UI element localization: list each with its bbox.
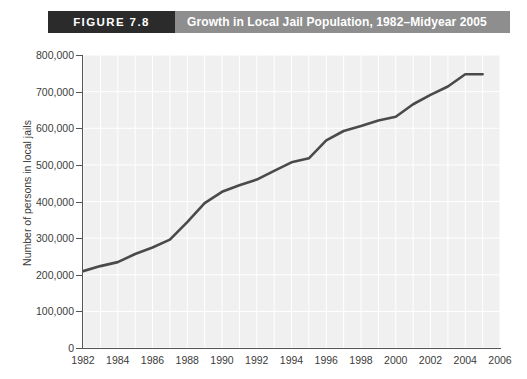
y-axis-tick-label: 800,000 [8,49,74,61]
y-axis-tick-label: 100,000 [8,305,74,317]
y-axis-tick-label: 200,000 [8,269,74,281]
y-axis-tick-label: 700,000 [8,86,74,98]
plot-area [83,55,500,348]
y-axis-tick-label: 600,000 [8,122,74,134]
data-line-series [83,55,500,348]
y-axis-tick-label: 400,000 [8,196,74,208]
y-axis-tick-label: 0 [8,342,74,354]
figure-title: Growth in Local Jail Population, 1982–Mi… [175,11,510,33]
y-axis-tick-label: 300,000 [8,232,74,244]
x-axis-tick-label: 2006 [480,354,520,366]
y-axis-tick-labels: 0100,000200,000300,000400,000500,000600,… [0,40,74,379]
chart-container: Number of persons in local jails 0100,00… [0,40,527,379]
x-axis-line [82,348,501,349]
figure-number-label: FIGURE 7.8 [48,11,175,33]
figure-header: FIGURE 7.8 Growth in Local Jail Populati… [48,11,510,33]
y-axis-tick-label: 500,000 [8,159,74,171]
y-axis-line [82,55,83,349]
